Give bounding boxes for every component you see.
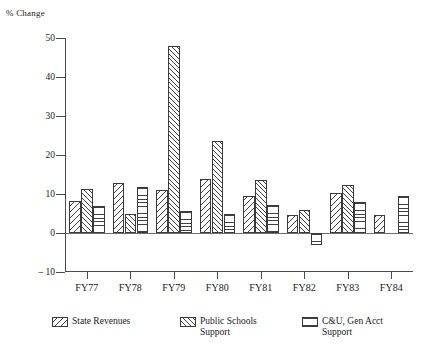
x-axis-tick [217,272,218,279]
y-axis-label: 30 [9,111,55,121]
x-axis-tick [130,272,131,279]
y-axis-tick [56,77,65,78]
y-axis-tick [56,272,65,273]
bar [125,214,137,233]
x-axis-tick [261,272,262,279]
bar [299,210,311,233]
legend-entry: Public Schools Support [180,316,257,338]
legend-label: Public Schools Support [200,316,257,338]
y-axis-label: 40 [9,72,55,82]
bar [200,179,212,233]
x-axis-label-fy82: FY82 [293,282,316,293]
x-axis-label-fy77: FY77 [75,282,98,293]
x-axis-tick [391,272,392,279]
legend-swatch-icon [180,317,196,327]
bar [243,196,255,233]
bar [311,233,323,245]
y-axis-label: 0 [9,228,55,238]
x-axis-label-fy83: FY83 [336,282,359,293]
bar [93,206,105,233]
y-axis-title: % Change [6,8,45,18]
x-axis-label-fy81: FY81 [249,282,272,293]
bar [224,214,236,234]
bar [81,189,93,233]
bar [330,193,342,233]
y-axis-tick [56,38,65,39]
legend-label: State Revenues [72,316,130,327]
x-axis-label-fy79: FY79 [162,282,185,293]
chart-legend: State RevenuesPublic Schools SupportC&U,… [52,316,402,350]
legend-entry: C&U, Gen Acct Support [302,316,383,338]
y-axis-tick [56,155,65,156]
x-axis-line [65,271,413,272]
bar [156,190,168,233]
bar [113,183,125,233]
x-axis-tick [174,272,175,279]
x-axis-label-fy84: FY84 [380,282,403,293]
bar [168,46,180,233]
bar [342,185,354,233]
bar [374,215,386,233]
legend-label: C&U, Gen Acct Support [322,316,383,338]
bar [354,202,366,233]
y-axis-label: 50 [9,33,55,43]
bar [212,141,224,233]
plot-area [65,38,413,272]
legend-swatch-icon [302,317,318,327]
zero-baseline [65,233,413,234]
bar [255,180,267,233]
bar [180,211,192,233]
x-axis-label-fy80: FY80 [206,282,229,293]
legend-swatch-icon [52,317,68,327]
legend-entry: State Revenues [52,316,130,327]
bar-chart: % Change State RevenuesPublic Schools Su… [0,0,432,356]
y-axis-label: – 10 [9,267,55,277]
y-axis-line [65,38,66,272]
y-axis-tick [56,233,65,234]
y-axis-label: 10 [9,189,55,199]
bar [287,215,299,233]
y-axis-tick [56,194,65,195]
bar [69,201,81,233]
bar [137,187,149,233]
bar [267,205,279,233]
x-axis-tick [87,272,88,279]
bar [398,196,410,233]
y-axis-tick [56,116,65,117]
x-axis-label-fy78: FY78 [119,282,142,293]
x-axis-tick [348,272,349,279]
y-axis-label: 20 [9,150,55,160]
x-axis-tick [304,272,305,279]
